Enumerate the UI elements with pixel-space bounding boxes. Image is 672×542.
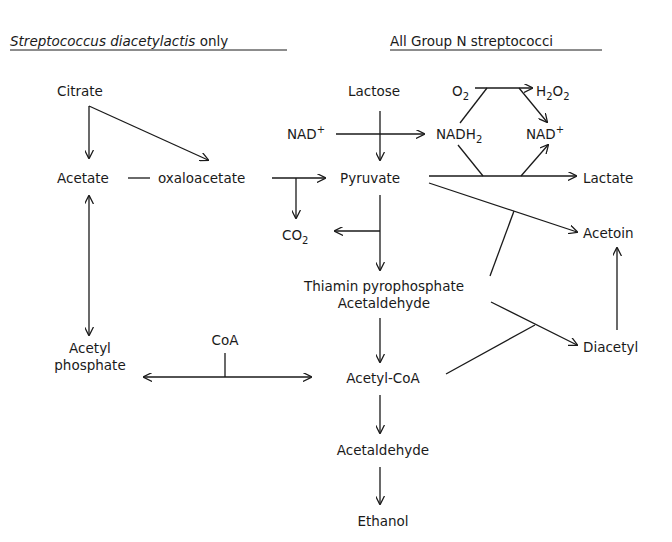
node-nad-left: NAD+ xyxy=(287,124,325,142)
node-lactate: Lactate xyxy=(583,170,633,186)
node-nadh2: NADH2 xyxy=(436,126,482,145)
node-oxaloacetate: oxaloacetate xyxy=(158,170,245,186)
arrow-pyruvate-acetoin xyxy=(429,183,577,232)
node-tpp-line1: Thiamin pyrophosphate xyxy=(303,278,464,294)
node-o2: O2 xyxy=(452,83,469,102)
link-tpp-acetoin xyxy=(490,211,514,276)
arrow-lactate-nad xyxy=(521,145,548,176)
header-left-suffix: only xyxy=(195,33,228,49)
link-acetylcoa-diacetyl xyxy=(446,325,535,374)
node-tpp-line2: Acetaldehyde xyxy=(338,295,430,311)
node-h2o2: H2O2 xyxy=(536,83,570,102)
header-right: All Group N streptococci xyxy=(390,33,602,50)
node-acetyl-line2: phosphate xyxy=(54,357,125,373)
header-right-text: All Group N streptococci xyxy=(390,33,553,49)
node-acetate: Acetate xyxy=(57,170,109,186)
node-acetyl-coa: Acetyl-CoA xyxy=(346,370,420,386)
node-lactose: Lactose xyxy=(348,83,400,99)
svg-text:Streptococcus diacetylactis on: Streptococcus diacetylactis only xyxy=(10,33,228,49)
node-acetyl-line1: Acetyl xyxy=(69,340,111,356)
node-nad-right: NAD+ xyxy=(526,124,564,142)
arrow-citrate-oxaloacetate xyxy=(89,106,208,160)
node-pyruvate: Pyruvate xyxy=(340,170,400,186)
node-acetaldehyde: Acetaldehyde xyxy=(337,442,429,458)
link-nadh2-lactate xyxy=(458,145,483,176)
node-co2: CO2 xyxy=(282,227,308,246)
node-acetoin: Acetoin xyxy=(583,225,634,241)
node-diacetyl: Diacetyl xyxy=(583,339,638,355)
node-citrate: Citrate xyxy=(57,83,103,99)
pathway-diagram: Streptococcus diacetylactis only All Gro… xyxy=(0,0,672,542)
node-coa: CoA xyxy=(212,332,240,348)
header-left-species: Streptococcus diacetylactis xyxy=(10,33,195,49)
header-left: Streptococcus diacetylactis only xyxy=(10,33,287,50)
arrow-tpp-diacetyl xyxy=(491,302,577,345)
node-ethanol: Ethanol xyxy=(357,513,408,529)
